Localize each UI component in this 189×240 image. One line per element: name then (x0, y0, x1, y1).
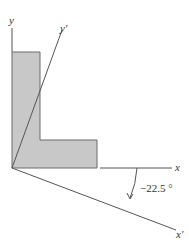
y-prime-axis-label: y' (59, 22, 68, 34)
diagram-canvas: y y' x x' −22.5 ° (0, 0, 189, 240)
x-axis-label: x (174, 161, 180, 173)
l-shape-section (12, 52, 97, 168)
angle-label: −22.5 ° (140, 182, 173, 194)
y-axis-label: y (8, 14, 14, 26)
angle-arc (130, 168, 137, 198)
x-prime-axis (12, 168, 176, 230)
x-prime-axis-label: x' (175, 228, 184, 240)
